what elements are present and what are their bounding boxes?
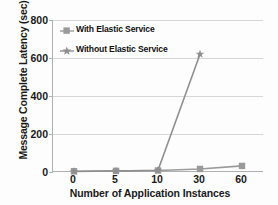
x-axis-tick-label: 60: [235, 174, 247, 185]
y-axis-tick-label: 600: [20, 53, 48, 64]
square-marker: [197, 166, 203, 172]
x-axis-tick-label: 5: [112, 174, 118, 185]
x-axis-title: Number of Application Instances: [30, 187, 270, 199]
y-axis-tick-label: 800: [20, 15, 48, 26]
legend-label: With Elastic Service: [76, 24, 155, 34]
square-marker: [60, 23, 74, 35]
y-axis-tick-label: 0: [20, 167, 48, 178]
star-marker: [60, 43, 74, 55]
square-marker: [239, 163, 245, 169]
y-axis-tick-label: 400: [20, 91, 48, 102]
x-axis-tick-label: 10: [151, 174, 163, 185]
x-axis-tick-labels: 05103060: [52, 174, 262, 188]
legend-label: Without Elastic Service: [76, 44, 168, 54]
x-axis-tick-label: 30: [193, 174, 205, 185]
series-line-2: [74, 54, 200, 171]
legend: With Elastic ServiceWithout Elastic Serv…: [60, 21, 200, 61]
legend-entry[interactable]: With Elastic Service: [60, 21, 200, 36]
y-axis-tick-label: 200: [20, 129, 48, 140]
legend-entry[interactable]: Without Elastic Service: [60, 41, 200, 56]
y-axis-tick-labels: 0200400600800: [18, 0, 48, 205]
line-chart: Message Complete Latency (sec) 020040060…: [0, 0, 278, 205]
y-axis-tickmark: [49, 172, 53, 173]
x-axis-tick-label: 0: [70, 174, 76, 185]
